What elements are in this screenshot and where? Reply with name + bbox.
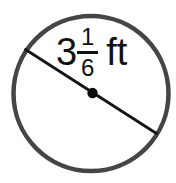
- measurement-unit: ft: [106, 33, 127, 71]
- center-point-dot: [87, 88, 97, 98]
- mixed-number-fraction: 1 6: [77, 25, 98, 80]
- diameter-label: 3 1 6 ft: [56, 24, 127, 80]
- fraction-numerator: 1: [79, 25, 96, 49]
- fraction-denominator: 6: [79, 56, 96, 80]
- circle-diagram: 3 1 6 ft: [0, 0, 176, 183]
- mixed-number-whole: 3: [56, 33, 76, 71]
